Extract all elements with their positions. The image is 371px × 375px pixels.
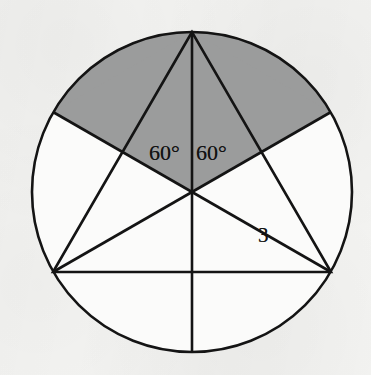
geometry-figure: 60° 60° 3 — [0, 0, 371, 375]
geometry-diagram — [0, 0, 371, 375]
angle-label-right: 60° — [196, 142, 227, 164]
angle-label-left: 60° — [149, 142, 180, 164]
side-length-label: 3 — [258, 225, 269, 246]
